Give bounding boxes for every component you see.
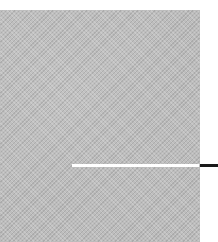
textured-gray-panel <box>0 10 200 242</box>
black-leader-line <box>200 164 218 167</box>
white-marker-line <box>72 164 199 167</box>
